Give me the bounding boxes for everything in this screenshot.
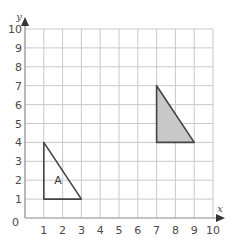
- y-tick-label: 6: [15, 99, 22, 112]
- y-tick-label: 3: [15, 155, 22, 168]
- y-tick-label: 8: [15, 61, 22, 74]
- x-tick-label: 2: [59, 224, 66, 237]
- y-tick-label: 1: [15, 193, 22, 206]
- y-axis-label: y: [15, 11, 22, 22]
- x-tick-label: 9: [191, 224, 198, 237]
- coordinate-grid-diagram: A yx12345678910123456789100: [0, 0, 232, 246]
- x-tick-label: 3: [78, 224, 85, 237]
- y-tick-label: 9: [15, 42, 22, 55]
- y-tick-label: 4: [15, 136, 22, 149]
- grid-canvas: A yx12345678910123456789100: [0, 0, 232, 246]
- y-tick-label: 7: [15, 80, 22, 93]
- x-tick-label: 6: [134, 224, 141, 237]
- x-tick-label: 7: [153, 224, 160, 237]
- x-tick-label: 8: [172, 224, 179, 237]
- y-tick-label: 5: [15, 118, 22, 131]
- y-tick-label: 10: [8, 23, 22, 36]
- grid-lines: [25, 29, 213, 218]
- triangle-a-label: A: [54, 174, 62, 187]
- origin-label: 0: [12, 216, 19, 229]
- y-tick-label: 2: [15, 174, 22, 187]
- x-tick-label: 10: [206, 224, 220, 237]
- y-axis-arrow-icon: [21, 17, 29, 26]
- x-tick-label: 5: [116, 224, 123, 237]
- x-tick-label: 4: [97, 224, 104, 237]
- x-tick-label: 1: [40, 224, 47, 237]
- x-axis-label: x: [217, 203, 223, 214]
- x-axis-arrow-icon: [216, 214, 225, 222]
